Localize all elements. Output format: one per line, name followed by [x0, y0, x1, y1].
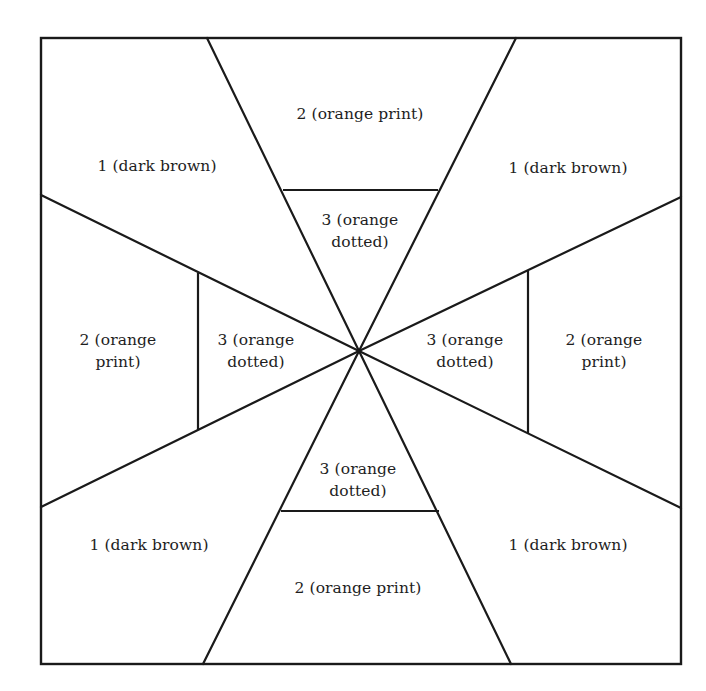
region-label-text: 1 (dark brown)	[89, 534, 208, 556]
spoke-line	[359, 197, 681, 351]
region-label-outer-bottom: 2 (orange print)	[295, 577, 422, 599]
region-label-text: 2 (orange print)	[295, 577, 422, 599]
region-label-line-2: dotted)	[320, 480, 397, 502]
spoke-line	[41, 195, 359, 351]
spoke-line	[41, 351, 359, 507]
region-label-inner-bottom: 3 (orange dotted)	[320, 458, 397, 502]
region-label-line-2: dotted)	[427, 351, 504, 373]
region-label-line-1: 3 (orange	[427, 329, 504, 351]
spoke-line	[359, 38, 516, 351]
region-label-text: 1 (dark brown)	[97, 155, 216, 177]
region-label-outer-top: 2 (orange print)	[297, 103, 424, 125]
region-label-line-2: print)	[80, 351, 157, 373]
region-label-text: 1 (dark brown)	[508, 534, 627, 556]
region-label-corner-bottom-right: 1 (dark brown)	[508, 534, 627, 556]
region-label-inner-right: 3 (orange dotted)	[427, 329, 504, 373]
spoke-line	[203, 351, 359, 664]
region-label-text: 2 (orange print)	[297, 103, 424, 125]
region-label-line-1: 3 (orange	[320, 458, 397, 480]
region-label-line-2: dotted)	[322, 231, 399, 253]
region-label-outer-left: 2 (orange print)	[80, 329, 157, 373]
region-label-inner-left: 3 (orange dotted)	[218, 329, 295, 373]
spoke-line	[207, 38, 359, 351]
region-label-line-1: 2 (orange	[566, 329, 643, 351]
region-label-corner-top-left: 1 (dark brown)	[97, 155, 216, 177]
region-label-line-2: dotted)	[218, 351, 295, 373]
region-label-line-1: 3 (orange	[322, 209, 399, 231]
region-label-inner-top: 3 (orange dotted)	[322, 209, 399, 253]
region-label-line-1: 3 (orange	[218, 329, 295, 351]
region-label-line-2: print)	[566, 351, 643, 373]
spoke-line	[359, 351, 681, 508]
region-label-outer-right: 2 (orange print)	[566, 329, 643, 373]
region-label-corner-top-right: 1 (dark brown)	[508, 157, 627, 179]
region-label-text: 1 (dark brown)	[508, 157, 627, 179]
spoke-line	[359, 351, 511, 664]
region-label-corner-bottom-left: 1 (dark brown)	[89, 534, 208, 556]
region-label-line-1: 2 (orange	[80, 329, 157, 351]
